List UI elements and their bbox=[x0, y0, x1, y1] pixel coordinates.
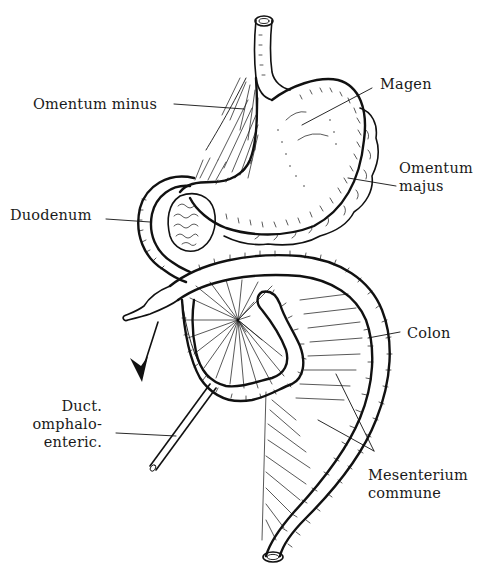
leader-lines bbox=[106, 88, 400, 451]
label-duct-line3: enteric. bbox=[20, 434, 102, 451]
label-omentum-minus: Omentum minus bbox=[33, 96, 157, 113]
leader-duct bbox=[116, 433, 176, 436]
label-omentum-majus-line2: majus bbox=[399, 178, 444, 195]
leader-duodenum bbox=[106, 219, 150, 222]
cecum-tip bbox=[123, 286, 178, 321]
label-mesenterium-line2: commune bbox=[368, 485, 441, 502]
label-colon: Colon bbox=[407, 325, 451, 342]
esophagus bbox=[255, 16, 291, 100]
stomach bbox=[180, 78, 365, 235]
label-magen: Magen bbox=[380, 76, 432, 93]
leader-mesenterium-1 bbox=[336, 374, 374, 451]
omphaloenteric-duct bbox=[149, 384, 216, 472]
anatomical-figure: Omentum minus Magen Omentum majus Duoden… bbox=[0, 0, 489, 583]
label-duct-line1: Duct. bbox=[40, 398, 102, 415]
rotation-arrow-icon bbox=[130, 322, 158, 382]
leader-colon bbox=[368, 332, 400, 338]
label-duct-line2: omphalo- bbox=[20, 416, 102, 433]
duodenum bbox=[138, 177, 194, 282]
label-omentum-majus-line1: Omentum bbox=[399, 160, 473, 177]
label-mesenterium-line1: Mesenterium bbox=[368, 467, 468, 484]
mesenterium-commune bbox=[182, 280, 362, 540]
small-intestine-loop bbox=[182, 290, 306, 401]
leader-omentum-minus bbox=[174, 104, 244, 109]
label-duodenum: Duodenum bbox=[10, 207, 92, 224]
